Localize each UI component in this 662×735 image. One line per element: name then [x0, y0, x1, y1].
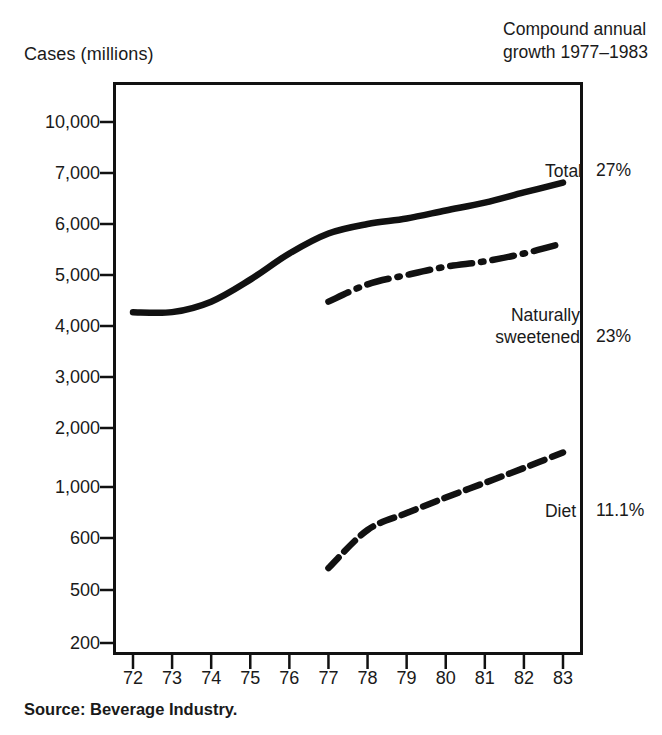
x-tick-label: 74: [191, 668, 231, 689]
series-label-diet-text: Diet: [545, 500, 576, 522]
source-note: Source: Beverage Industry.: [24, 700, 237, 719]
growth-value-total: 27%: [596, 160, 631, 181]
x-tick-label: 77: [308, 668, 348, 689]
y-tick-label: 10,000: [10, 112, 100, 133]
y-tick-label: 2,000: [10, 418, 100, 439]
x-tick-label: 72: [113, 668, 153, 689]
y-axis-tick-labels: 10,0007,0006,0005,0004,0003,0002,0001,00…: [0, 0, 100, 735]
x-tick-label: 81: [465, 668, 505, 689]
series-label-naturally-sweetened: Naturally sweetened: [495, 304, 580, 348]
chart-figure: Cases (millions) Compound annual growth …: [0, 0, 662, 735]
growth-value-naturally-sweetened: 23%: [596, 326, 631, 347]
compound-growth-header-line2: growth 1977–1983: [503, 41, 648, 64]
x-tick-label: 83: [543, 668, 583, 689]
plot-area-frame: [113, 82, 583, 655]
y-tick-label: 500: [10, 580, 100, 601]
y-tick-label: 3,000: [10, 367, 100, 388]
series-label-natural-line1: Naturally: [495, 304, 580, 326]
x-tick-label: 73: [152, 668, 192, 689]
growth-value-diet: 11.1%: [596, 500, 644, 521]
y-tick-label: 6,000: [10, 214, 100, 235]
y-tick-label: 4,000: [10, 316, 100, 337]
series-label-total: Total: [545, 160, 582, 182]
x-tick-label: 76: [269, 668, 309, 689]
x-tick-label: 78: [348, 668, 388, 689]
y-tick-label: 600: [10, 528, 100, 549]
x-tick-label: 82: [504, 668, 544, 689]
series-label-diet: Diet: [545, 500, 576, 522]
compound-growth-header-line1: Compound annual: [503, 18, 648, 41]
x-tick-label: 75: [230, 668, 270, 689]
series-label-natural-line2: sweetened: [495, 326, 580, 348]
y-tick-label: 1,000: [10, 477, 100, 498]
compound-growth-header: Compound annual growth 1977–1983: [503, 18, 648, 64]
y-tick-label: 7,000: [10, 163, 100, 184]
y-tick-label: 5,000: [10, 265, 100, 286]
x-tick-label: 79: [387, 668, 427, 689]
series-label-total-text: Total: [545, 160, 582, 182]
y-tick-label: 200: [10, 633, 100, 654]
x-tick-label: 80: [426, 668, 466, 689]
